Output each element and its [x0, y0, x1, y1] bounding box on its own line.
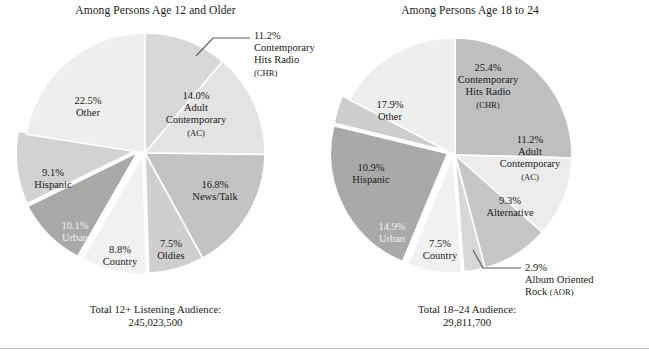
slice-label-right-country: 7.5% Country — [423, 238, 457, 262]
slice-label-right-hispanic: 10.9% Hispanic — [352, 162, 389, 186]
chart-panel-age-18-24: Among Persons Age 18 to 24 — [325, 0, 649, 353]
slice-label-right-chr: 25.4% Contemporary Hits Radio (CHR) — [458, 62, 519, 111]
pie-left-wrap: 14.0% Adult Contemporary (AC) 16.8% News… — [0, 0, 325, 353]
slice-label-left-hispanic: 9.1% Hispanic — [34, 167, 71, 191]
slice-label-left-ac: 14.0% Adult Contemporary (AC) — [166, 90, 227, 139]
footer-right-line1: Total 18–24 Audience: — [305, 303, 629, 316]
slice-label-left-news-talk: 16.8% News/Talk — [192, 179, 237, 203]
slice-label-left-urban: 10.1% Urban — [61, 220, 88, 244]
callout-label-left-chr: 11.2% Contemporary Hits Radio (CHR) — [254, 30, 315, 79]
footer-right: Total 18–24 Audience: 29,811,700 — [305, 303, 629, 329]
slice-label-right-alternative: 9.3% Alternative — [486, 195, 533, 219]
slice-label-left-country: 8.8% Country — [103, 244, 137, 268]
pie-right-svg — [325, 0, 649, 300]
slice-left-other[interactable] — [26, 33, 145, 153]
pie-right-wrap: 25.4% Contemporary Hits Radio (CHR) 11.2… — [325, 0, 649, 353]
footer-left-line2: 245,023,500 — [0, 316, 318, 329]
footer-right-line2: 29,811,700 — [305, 316, 629, 329]
slice-label-right-other: 17.9% Other — [376, 99, 403, 123]
slice-label-left-other: 22.5% Other — [74, 95, 101, 119]
callout-label-right-aor: 2.9% Album Oriented Rock (AOR) — [525, 262, 594, 299]
bottom-divider — [0, 348, 649, 349]
slice-label-right-ac: 11.2% Adult Contemporary (AC) — [500, 134, 561, 183]
slice-label-right-urban: 14.9% Urban — [378, 221, 405, 245]
pie-chart-figure: Among Persons Age 12 and Older — [0, 0, 649, 353]
footer-left: Total 12+ Listening Audience: 245,023,50… — [0, 303, 318, 329]
chart-panel-age-12-plus: Among Persons Age 12 and Older — [0, 0, 325, 353]
footer-left-line1: Total 12+ Listening Audience: — [0, 303, 318, 316]
slice-label-left-oldies: 7.5% Oldies — [157, 238, 184, 262]
